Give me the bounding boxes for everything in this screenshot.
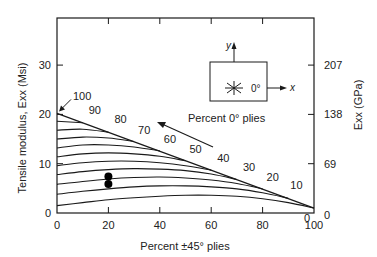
ply-percent-label: 70 <box>138 124 150 136</box>
data-markers <box>104 173 112 188</box>
laminate-modulus-chart: 0204060801000102030069138207 10090807060… <box>0 0 377 257</box>
inset-y-label: y <box>225 40 232 51</box>
inset-x-arrowhead <box>280 86 287 91</box>
ply-percent-label: 50 <box>190 143 202 155</box>
y-tick-label-right: 207 <box>324 59 342 71</box>
data-point-marker <box>104 173 112 181</box>
y-tick-label-left: 0 <box>45 207 51 219</box>
ply-percent-label: 20 <box>267 171 279 183</box>
ply-percent-label: 80 <box>114 113 126 125</box>
y-tick-label-left: 10 <box>39 158 51 170</box>
x-tick-label: 40 <box>154 219 166 231</box>
ply-percent-label: 30 <box>243 161 255 173</box>
ply-percent-label: 40 <box>217 152 229 164</box>
y-axis-title-left: Tensile modulus, Exx (Msi) <box>16 63 28 194</box>
y-tick-label-right: 138 <box>324 108 342 120</box>
ply-percent-label: 100 <box>73 90 91 102</box>
y-axis-title-right: Exx (GPa) <box>352 80 364 131</box>
y-tick-label-right: 0 <box>324 209 330 221</box>
direction-label: Percent 0° plies <box>188 112 266 124</box>
inset-x-label: x <box>289 82 296 93</box>
y-tick-label-right: 69 <box>324 158 336 170</box>
ply-percent-label: 10 <box>290 179 302 191</box>
inset-y-arrowhead <box>232 42 237 49</box>
ply-percent-label: 60 <box>164 133 176 145</box>
inset-box <box>210 62 267 101</box>
ply-curve <box>57 186 288 198</box>
inset-angle-label: 0° <box>251 83 261 94</box>
x-axis-title: Percent ±45° plies <box>140 240 230 252</box>
y-tick-label-left: 20 <box>39 108 51 120</box>
boundary-line <box>57 113 314 208</box>
x-tick-label: 60 <box>205 219 217 231</box>
ply-percent-label: 0 <box>304 212 310 224</box>
x-tick-label: 20 <box>102 219 114 231</box>
ply-percent-label: 90 <box>89 104 101 116</box>
plot-frame: 0204060801000102030069138207 <box>39 18 343 231</box>
coordinate-inset: yx0° <box>210 40 296 101</box>
data-point-marker <box>104 180 112 188</box>
x-tick-label: 0 <box>54 219 60 231</box>
zero-ply-boundary-line: 1009080706050403020100Percent 0° plies <box>57 90 314 224</box>
x-tick-label: 80 <box>256 219 268 231</box>
y-tick-label-left: 30 <box>39 59 51 71</box>
ply-curve <box>57 195 314 208</box>
chart-svg: 0204060801000102030069138207 10090807060… <box>0 0 377 257</box>
